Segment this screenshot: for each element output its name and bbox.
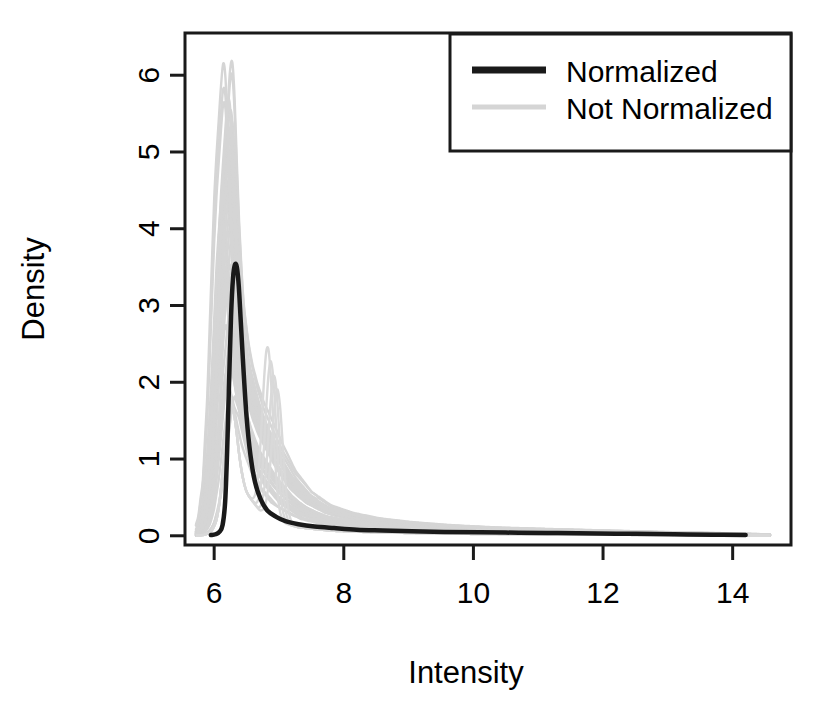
y-tick-label: 0 [133, 527, 166, 544]
chart-canvas: 68101214 0123456 Intensity Density Norma… [0, 0, 832, 727]
y-tick-label: 6 [133, 67, 166, 84]
legend-label-not-normalized: Not Normalized [566, 92, 773, 125]
x-axis-title: Intensity [408, 655, 524, 690]
x-tick-label: 8 [335, 576, 352, 609]
legend: Normalized Not Normalized [450, 34, 791, 151]
legend-label-normalized: Normalized [566, 55, 718, 88]
y-tick-label: 5 [133, 144, 166, 161]
x-tick-label: 10 [457, 576, 490, 609]
x-tick-label: 14 [716, 576, 749, 609]
y-tick-label: 1 [133, 451, 166, 468]
y-axis-title: Density [16, 237, 51, 341]
density-plot-figure: 68101214 0123456 Intensity Density Norma… [0, 0, 832, 727]
y-tick-label: 3 [133, 297, 166, 314]
x-tick-label: 6 [206, 576, 223, 609]
y-tick-label: 4 [133, 220, 166, 237]
x-tick-label: 12 [586, 576, 619, 609]
y-tick-label: 2 [133, 374, 166, 391]
